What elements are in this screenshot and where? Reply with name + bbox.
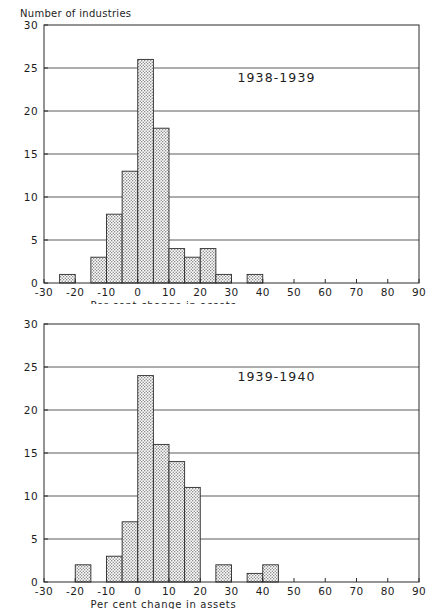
y-tick-label: 10 <box>24 490 38 502</box>
histogram-bar <box>91 257 107 283</box>
chart-canvas-1938-1939: 051015202530-30-20-100102030405060708090… <box>0 0 442 304</box>
y-tick-label: 20 <box>24 105 38 117</box>
x-tick-label: -30 <box>35 585 53 597</box>
histogram-bar <box>185 257 201 283</box>
x-tick-label: 40 <box>256 286 270 298</box>
x-tick-label: 90 <box>412 286 426 298</box>
y-tick-label: 5 <box>31 234 38 246</box>
chart-canvas-1939-1940: 051015202530-30-20-100102030405060708090… <box>0 305 442 609</box>
x-tick-label: -20 <box>66 585 84 597</box>
x-tick-label: 10 <box>162 585 176 597</box>
y-tick-label: 30 <box>24 318 38 330</box>
x-tick-label: 30 <box>224 286 238 298</box>
histogram-bar <box>107 214 123 283</box>
y-tick-label: 15 <box>24 148 38 160</box>
histogram-bar <box>60 274 76 283</box>
histogram-bar <box>216 274 232 283</box>
x-tick-label: 60 <box>318 286 332 298</box>
x-tick-label: 90 <box>412 585 426 597</box>
histogram-bar <box>75 565 91 582</box>
histogram-bar <box>122 522 138 582</box>
x-tick-label: -10 <box>97 286 115 298</box>
x-axis-label: Per cent change in assets <box>91 300 237 304</box>
y-tick-label: 10 <box>24 191 38 203</box>
histogram-bar <box>138 59 154 283</box>
histogram-bar <box>122 171 138 283</box>
chart-panel-1938-1939: 051015202530-30-20-100102030405060708090… <box>0 0 442 304</box>
x-tick-label: -20 <box>66 286 84 298</box>
y-axis-label: Number of industries <box>20 8 131 19</box>
x-tick-label: 20 <box>193 286 207 298</box>
histogram-bar <box>263 565 279 582</box>
x-tick-label: 30 <box>224 585 238 597</box>
x-tick-label: 40 <box>256 585 270 597</box>
histogram-bar <box>247 573 263 582</box>
y-tick-label: 20 <box>24 404 38 416</box>
histogram-bar <box>169 249 185 283</box>
x-tick-label: 80 <box>381 585 395 597</box>
series-title: 1939-1940 <box>237 369 315 384</box>
x-tick-label: 50 <box>287 585 301 597</box>
x-axis-label: Per cent change in assets <box>91 599 237 609</box>
histogram-bar <box>138 376 154 582</box>
x-tick-label: 0 <box>134 286 141 298</box>
histogram-bar <box>247 274 263 283</box>
histogram-figure: 051015202530-30-20-100102030405060708090… <box>0 0 442 609</box>
x-tick-label: 0 <box>134 585 141 597</box>
histogram-bar <box>107 556 123 582</box>
x-tick-label: 10 <box>162 286 176 298</box>
x-tick-label: 70 <box>349 286 363 298</box>
x-tick-label: -10 <box>97 585 115 597</box>
x-tick-label: 60 <box>318 585 332 597</box>
histogram-bar <box>185 487 201 582</box>
x-tick-label: -30 <box>35 286 53 298</box>
x-tick-label: 70 <box>349 585 363 597</box>
y-tick-label: 25 <box>24 62 38 74</box>
histogram-bar <box>216 565 232 582</box>
histogram-bar <box>169 462 185 582</box>
chart-panel-1939-1940: 051015202530-30-20-100102030405060708090… <box>0 305 442 609</box>
y-tick-label: 5 <box>31 533 38 545</box>
y-tick-label: 30 <box>24 19 38 31</box>
y-tick-label: 25 <box>24 361 38 373</box>
x-tick-label: 80 <box>381 286 395 298</box>
histogram-bar <box>200 249 216 283</box>
series-title: 1938-1939 <box>237 70 315 85</box>
histogram-bar <box>153 128 169 283</box>
y-tick-label: 15 <box>24 447 38 459</box>
histogram-bar <box>153 444 169 582</box>
x-tick-label: 20 <box>193 585 207 597</box>
x-tick-label: 50 <box>287 286 301 298</box>
